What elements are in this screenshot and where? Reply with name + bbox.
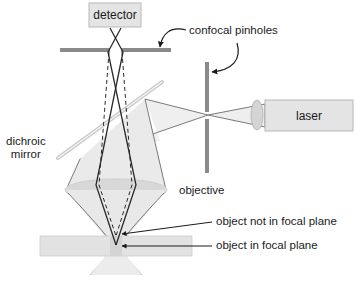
laser-pinhole-bottom	[205, 119, 209, 173]
pinhole-arrow-right	[212, 43, 238, 72]
pinhole-arrow-left	[160, 29, 186, 47]
confocal-pinholes-label: confocal pinholes	[189, 24, 278, 37]
object-in-focal-plane-label: object in focal plane	[216, 239, 318, 252]
detector-pinhole-right	[121, 48, 171, 52]
laser-label: laser	[265, 100, 353, 131]
dichroic-mirror-label: dichroic mirror	[6, 135, 46, 161]
detector-label: detector	[89, 3, 141, 27]
laser-lens	[251, 100, 263, 130]
object-not-in-focal-plane-label: object not in focal plane	[216, 215, 337, 228]
detector-pinhole-left	[60, 48, 110, 52]
objective-label: objective	[179, 184, 224, 197]
laser-pinhole-top	[205, 62, 209, 112]
